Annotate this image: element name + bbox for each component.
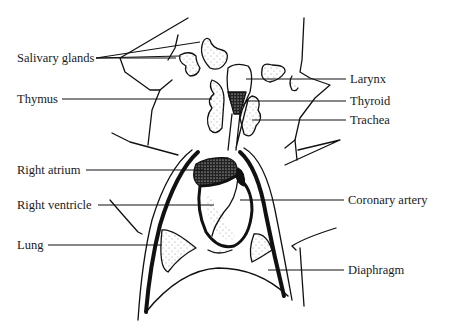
label-coronary-artery: Coronary artery: [348, 193, 427, 207]
label-diaphragm: Diaphragm: [348, 263, 404, 277]
label-right-atrium: Right atrium: [17, 163, 81, 177]
salivary-gland-1: [202, 38, 228, 69]
label-salivary-glands: Salivary glands: [17, 51, 94, 65]
label-thyroid: Thyroid: [350, 94, 390, 108]
salivary-gland-2: [180, 53, 200, 76]
anatomy-diagram: Salivary glands Thymus Right atrium Righ…: [0, 0, 449, 336]
leader-lines: [48, 42, 346, 270]
lung-left: [161, 230, 196, 272]
label-larynx: Larynx: [350, 72, 386, 86]
thymus-left: [207, 80, 224, 133]
left-jaw-outline: [120, 18, 188, 90]
right-atrium: [194, 158, 237, 186]
label-lung: Lung: [17, 238, 43, 252]
label-trachea: Trachea: [350, 113, 390, 127]
label-thymus: Thymus: [17, 92, 58, 106]
label-right-ventricle: Right ventricle: [17, 198, 92, 212]
diaphragm: [146, 268, 288, 312]
